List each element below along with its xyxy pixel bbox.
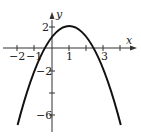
y-axis-arrow-icon xyxy=(50,12,55,19)
x-tick-label: 1 xyxy=(66,50,73,63)
y-axis: 2 −2 −6 y xyxy=(36,8,63,132)
y-axis-label: y xyxy=(55,8,63,21)
y-tick-label: 2 xyxy=(42,21,49,34)
y-tick-label: −2 xyxy=(36,65,52,78)
x-tick-label: 3 xyxy=(101,50,108,63)
x-axis-label: x xyxy=(126,34,133,47)
x-tick-label: −2 xyxy=(9,50,25,63)
y-tick-label: −6 xyxy=(36,109,52,122)
parabola-chart: −2 −1 1 3 x 2 −2 −6 y xyxy=(0,0,141,139)
x-axis: −2 −1 1 3 x xyxy=(3,34,137,63)
parabola-curve xyxy=(18,26,121,125)
